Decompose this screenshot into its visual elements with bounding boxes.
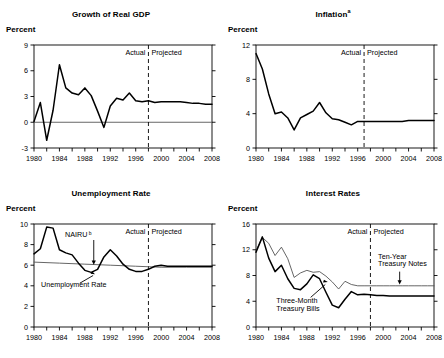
- projected-label: Projected: [151, 48, 181, 57]
- panel-inflation: Inflationa Percent 048121980198419881992…: [222, 0, 444, 179]
- x-tick-label: 1988: [77, 154, 93, 163]
- three-month-arrow-shaft: [311, 285, 326, 298]
- y-tick-label: 3: [24, 92, 28, 101]
- y-tick-label: 10: [20, 220, 28, 229]
- projected-label: Projected: [373, 227, 403, 236]
- chart-canvas-growth-of-real-gdp: -3036919801984198819921996200020042008Ac…: [0, 0, 222, 179]
- projected-label: Projected: [151, 227, 181, 236]
- x-tick-label: 2000: [153, 154, 169, 163]
- plot-frame: [34, 224, 212, 327]
- x-tick-label: 1996: [350, 154, 366, 163]
- three-month-arrowhead: [323, 280, 328, 283]
- x-tick-label: 1996: [128, 333, 144, 342]
- y-tick-label: 12: [242, 41, 250, 50]
- y-tick-label: 0: [246, 144, 250, 153]
- x-tick-label: 1988: [77, 333, 93, 342]
- x-tick-label: 2004: [179, 333, 195, 342]
- x-tick-label: 1992: [324, 154, 340, 163]
- x-tick-label: 1984: [51, 333, 67, 342]
- x-tick-label: 1988: [299, 154, 315, 163]
- ten-year-annotation-line2: Treasury Notes: [378, 259, 427, 268]
- series-line: [34, 65, 212, 141]
- y-tick-label: 0: [24, 118, 28, 127]
- panel-unemployment-rate: Unemployment Rate Percent 02468101980198…: [0, 179, 222, 358]
- x-tick-label: 1980: [248, 154, 264, 163]
- projected-label: Projected: [367, 48, 397, 57]
- x-tick-label: 1980: [26, 333, 42, 342]
- x-tick-label: 1980: [248, 333, 264, 342]
- x-tick-label: 2000: [375, 333, 391, 342]
- plot-frame: [34, 45, 212, 148]
- x-tick-label: 2004: [401, 154, 417, 163]
- x-tick-label: 1992: [102, 154, 118, 163]
- nairu-annotation-label: NAIRU: [65, 230, 87, 239]
- y-tick-label: 12: [242, 245, 250, 254]
- x-tick-label: 2008: [426, 333, 442, 342]
- y-tick-label: 0: [24, 323, 28, 332]
- y-tick-label: 8: [246, 271, 250, 280]
- x-tick-label: 2000: [153, 333, 169, 342]
- y-tick-label: 4: [246, 109, 250, 118]
- nairu-annotation-superscript: b: [89, 230, 92, 236]
- actual-label: Actual: [125, 48, 145, 57]
- x-tick-label: 2008: [426, 154, 442, 163]
- chart-canvas-inflation: 0481219801984198819921996200020042008Act…: [222, 0, 444, 179]
- y-tick-label: -3: [22, 144, 28, 153]
- x-tick-label: 1984: [51, 154, 67, 163]
- x-tick-label: 2008: [204, 333, 220, 342]
- y-tick-label: 4: [24, 281, 28, 290]
- panel-growth-of-real-gdp: Growth of Real GDP Percent -303691980198…: [0, 0, 222, 179]
- x-tick-label: 1996: [350, 333, 366, 342]
- x-tick-label: 2008: [204, 154, 220, 163]
- x-tick-label: 1984: [273, 154, 289, 163]
- plot-frame: [256, 45, 434, 148]
- x-tick-label: 2000: [375, 154, 391, 163]
- y-tick-label: 0: [246, 323, 250, 332]
- x-tick-label: 1996: [128, 154, 144, 163]
- x-tick-label: 2004: [179, 154, 195, 163]
- y-tick-label: 16: [242, 220, 250, 229]
- actual-label: Actual: [341, 48, 361, 57]
- y-tick-label: 6: [24, 261, 28, 270]
- y-tick-label: 9: [24, 41, 28, 50]
- y-tick-label: 8: [246, 75, 250, 84]
- chart-canvas-interest-rates: 048121619801984198819921996200020042008A…: [222, 179, 444, 358]
- actual-label: Actual: [125, 227, 145, 236]
- y-tick-label: 6: [24, 66, 28, 75]
- chart-canvas-unemployment-rate: 024681019801984198819921996200020042008A…: [0, 179, 222, 358]
- x-tick-label: 1980: [26, 154, 42, 163]
- figure-root: Growth of Real GDP Percent -303691980198…: [0, 0, 444, 358]
- unemployment-rate-annotation-label: Unemployment Rate: [41, 280, 107, 289]
- series-line: [256, 54, 434, 130]
- x-tick-label: 2004: [401, 333, 417, 342]
- y-tick-label: 4: [246, 297, 250, 306]
- x-tick-label: 1992: [102, 333, 118, 342]
- y-tick-label: 2: [24, 302, 28, 311]
- y-tick-label: 8: [24, 240, 28, 249]
- actual-label: Actual: [347, 227, 367, 236]
- ten-year-arrowhead: [398, 280, 402, 284]
- three-month-annotation-line2: Treasury Bills: [276, 304, 320, 313]
- x-tick-label: 1984: [273, 333, 289, 342]
- panel-interest-rates: Interest Rates Percent 04812161980198419…: [222, 179, 444, 358]
- x-tick-label: 1992: [324, 333, 340, 342]
- x-tick-label: 1988: [299, 333, 315, 342]
